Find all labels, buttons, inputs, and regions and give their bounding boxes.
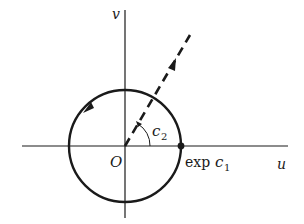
exp-c1-point	[178, 143, 185, 150]
complex-plane-diagram: v u O c 2 exp c 1	[0, 0, 304, 224]
svg-text:c: c	[152, 122, 161, 140]
svg-text:1: 1	[224, 162, 230, 173]
origin-label: O	[110, 153, 122, 171]
ray-direction-arrow-icon	[168, 58, 176, 71]
svg-text:c: c	[215, 153, 224, 171]
svg-text:exp: exp	[185, 154, 215, 170]
svg-text:2: 2	[161, 131, 167, 142]
u-axis-label: u	[277, 156, 286, 172]
angle-arc	[138, 124, 150, 146]
v-axis-label: v	[112, 6, 120, 22]
angle-label: c 2	[152, 122, 167, 142]
exp-c1-label: exp c 1	[185, 153, 230, 173]
